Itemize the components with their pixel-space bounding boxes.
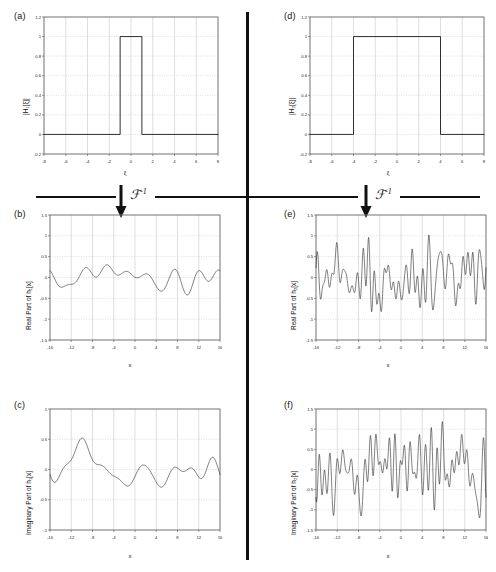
svg-text:4: 4 [421,345,424,350]
svg-text:-16: -16 [47,535,54,540]
axis-title-y-d: |H₂[ξ]| [288,98,295,115]
svg-text:16: 16 [484,345,488,350]
axis-title-x-c: x [40,553,220,559]
svg-text:-8: -8 [308,159,312,164]
panel-label-e: (e) [284,209,296,219]
svg-text:0.4: 0.4 [35,93,41,98]
axis-title-x-e: x [298,362,478,368]
svg-text:4: 4 [173,159,176,164]
svg-text:0.5: 0.5 [307,254,313,259]
axis-title-x-b: x [40,362,220,368]
svg-text:-8: -8 [357,345,361,350]
svg-text:-2: -2 [373,159,377,164]
svg-text:8: 8 [483,159,486,164]
svg-text:0.2: 0.2 [35,112,41,117]
svg-text:1.2: 1.2 [35,15,41,20]
svg-text:-1.5: -1.5 [306,338,314,343]
svg-text:0.8: 0.8 [301,54,307,59]
svg-text:0.2: 0.2 [301,112,307,117]
svg-text:-16: -16 [313,345,320,350]
svg-text:-1.5: -1.5 [306,528,314,533]
svg-text:1: 1 [311,233,314,238]
svg-text:-12: -12 [68,345,75,350]
svg-text:0: 0 [39,132,42,137]
svg-text:-8: -8 [91,535,95,540]
svg-text:4: 4 [155,535,158,540]
svg-text:0: 0 [134,535,137,540]
svg-text:-0.5: -0.5 [306,487,314,492]
axis-title-y-c: Imaginary Part of h₁[x] [25,471,32,535]
svg-text:0: 0 [311,275,314,280]
svg-text:8: 8 [217,159,220,164]
svg-text:6: 6 [461,159,464,164]
svg-text:-12: -12 [68,535,75,540]
svg-text:1.2: 1.2 [301,15,307,20]
svg-text:-0.5: -0.5 [306,296,314,301]
svg-text:0.5: 0.5 [41,437,47,442]
axis-title-y-f: Imaginary Part of h₂[x] [290,471,297,535]
svg-text:0.8: 0.8 [35,54,41,59]
svg-text:16: 16 [218,535,222,540]
svg-text:16: 16 [484,535,488,540]
svg-text:1.5: 1.5 [307,213,313,218]
svg-text:4: 4 [439,159,442,164]
svg-text:-1.5: -1.5 [40,338,48,343]
panel-label-d: (d) [284,11,296,21]
panel-c: (c) Imaginary Part of h₁[x] x -16-12-8-4… [0,380,246,572]
svg-text:0.6: 0.6 [35,73,41,78]
svg-text:0.6: 0.6 [301,73,307,78]
panel-label-f: (f) [284,400,293,410]
svg-text:1.5: 1.5 [41,213,47,218]
svg-text:16: 16 [218,345,222,350]
svg-text:-6: -6 [64,159,68,164]
svg-text:0: 0 [396,159,399,164]
axis-title-x-f: x [298,553,478,559]
svg-text:0.5: 0.5 [41,254,47,259]
svg-text:8: 8 [176,535,179,540]
svg-text:0: 0 [45,275,48,280]
svg-text:-4: -4 [112,345,116,350]
panel-label-b: (b) [14,209,26,219]
axis-title-y-b: Real Part of h₁[x] [25,281,32,330]
panel-b: (b) Real Part of h₁[x] x -16-12-8-404812… [0,190,246,380]
svg-text:12: 12 [196,345,201,350]
svg-text:0.5: 0.5 [307,447,313,452]
svg-text:-6: -6 [330,159,334,164]
svg-text:0: 0 [400,535,403,540]
svg-text:8: 8 [442,345,445,350]
plot-f: -16-12-8-40481216-1.5-1-0.500.511.5 [302,406,488,542]
svg-text:-4: -4 [86,159,90,164]
svg-text:-8: -8 [357,535,361,540]
svg-text:-16: -16 [313,535,320,540]
svg-text:6: 6 [195,159,198,164]
svg-text:-1: -1 [309,317,313,322]
svg-text:12: 12 [462,535,467,540]
svg-text:-16: -16 [47,345,54,350]
axis-title-y-a: |H₁[ξ]| [22,98,29,115]
plot-c: -16-12-8-40481216-1-0.500.51 [36,406,222,542]
axis-title-x-d: ξ [298,170,478,176]
svg-text:-12: -12 [334,535,341,540]
svg-text:-1: -1 [43,317,47,322]
plot-d: -8-6-4-202468-0.200.20.40.60.811.2 [296,14,486,166]
svg-text:0: 0 [400,345,403,350]
svg-text:0: 0 [305,132,308,137]
svg-text:12: 12 [196,535,201,540]
svg-text:-0.2: -0.2 [300,152,308,157]
svg-text:2: 2 [152,159,155,164]
figure-canvas: ℱ-1 ℱ-1 (a) |H₁[ξ]| ξ -8-6-4-202468-0.20… [0,0,496,572]
svg-text:-4: -4 [112,535,116,540]
svg-text:0: 0 [45,467,48,472]
svg-text:0: 0 [130,159,133,164]
svg-text:4: 4 [421,535,424,540]
svg-text:-1: -1 [309,507,313,512]
plot-e: -16-12-8-40481216-1.5-1-0.500.511.5 [302,212,488,352]
svg-text:4: 4 [155,345,158,350]
svg-text:1.5: 1.5 [307,407,313,412]
plot-a: -8-6-4-202468-0.200.20.40.60.811.2 [30,14,220,166]
svg-text:-4: -4 [352,159,356,164]
svg-text:-0.5: -0.5 [40,296,48,301]
svg-text:-12: -12 [334,345,341,350]
svg-text:-0.5: -0.5 [40,497,48,502]
svg-text:1: 1 [311,427,314,432]
